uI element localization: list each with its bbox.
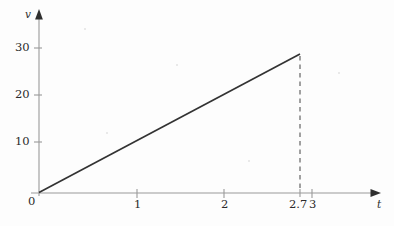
chart-figure: 30 20 10 0 1 2 2.7 3 v t	[0, 0, 394, 226]
y-tick-label-20: 20	[15, 89, 30, 101]
x-tick-label-2: 2	[221, 199, 228, 211]
x-tick-label-2p7: 2.7	[289, 199, 307, 211]
plot-area	[0, 0, 394, 226]
velocity-line	[39, 54, 300, 193]
x-axis-arrowhead	[371, 189, 382, 197]
y-axis-title: v	[25, 9, 31, 20]
x-tick-label-1: 1	[134, 199, 141, 211]
y-tick-label-30: 30	[15, 42, 30, 54]
y-axis-arrowhead	[35, 9, 43, 20]
origin-label: 0	[28, 196, 35, 208]
y-tick-label-10: 10	[15, 136, 30, 148]
x-tick-label-3: 3	[309, 199, 316, 211]
x-axis-title: t	[377, 199, 381, 210]
